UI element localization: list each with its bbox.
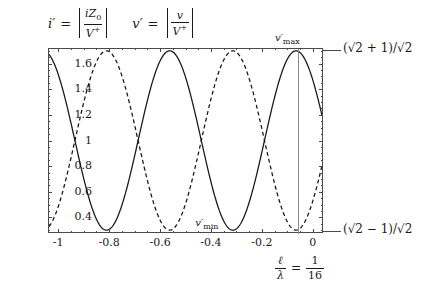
- axis-tick: [249, 48, 250, 50]
- axis-tick: [321, 108, 323, 109]
- axis-tick: [319, 166, 323, 167]
- axis-tick: [249, 231, 250, 233]
- abs-bar-right-current: [106, 8, 107, 38]
- axis-tick: [186, 48, 187, 50]
- axis-tick: [48, 108, 50, 109]
- lower-right-leader: [323, 231, 341, 232]
- ratio-equals: =: [291, 261, 301, 275]
- axis-tick: [48, 166, 52, 167]
- current-num: iZ: [85, 7, 96, 20]
- ratio-den: 16: [306, 268, 324, 282]
- abs-bar-left-current: [79, 8, 80, 38]
- axis-tick: [224, 48, 225, 50]
- axis-tick: [48, 147, 50, 148]
- axis-tick: [321, 121, 323, 122]
- axis-tick: [84, 48, 85, 50]
- axis-tick: [321, 51, 323, 52]
- current-den-sup: +: [94, 25, 101, 34]
- axis-tick: [321, 128, 323, 129]
- axis-tick: [48, 185, 50, 186]
- axis-tick: [319, 89, 323, 90]
- lower-right-label: (√2 − 1)/√2: [343, 222, 412, 236]
- axis-tick: [48, 211, 50, 212]
- upper-right-leader: [323, 50, 341, 51]
- axis-tick: [321, 224, 323, 225]
- axis-tick: [321, 96, 323, 97]
- axis-tick: [48, 224, 50, 225]
- standing-wave-figure: i′ = iZ0 V+ v′ = v V+ 0.40: [0, 0, 421, 290]
- axis-tick: [321, 205, 323, 206]
- abs-bar-right-voltage: [192, 8, 193, 38]
- abs-bar-left-voltage: [167, 8, 168, 38]
- voltage-prime: ′: [140, 16, 143, 31]
- axis-tick: [109, 48, 110, 52]
- axis-tick: [48, 134, 50, 135]
- axis-tick: [48, 89, 52, 90]
- axis-tick: [48, 153, 50, 154]
- axis-tick: [58, 229, 59, 233]
- axis-tick: [262, 48, 263, 52]
- axis-tick: [160, 48, 161, 52]
- axis-tick: [48, 192, 52, 193]
- axis-tick: [109, 229, 110, 233]
- y-tick-label: 1.6: [75, 57, 93, 70]
- axis-tick: [313, 229, 314, 233]
- axis-tick: [58, 48, 59, 52]
- axis-tick: [319, 192, 323, 193]
- axis-tick: [319, 115, 323, 116]
- x-tick-label: -1: [53, 236, 64, 249]
- y-tick-label: 1.2: [75, 108, 93, 121]
- voltage-fraction: v V+: [171, 10, 190, 38]
- voltage-equals: =: [148, 16, 159, 31]
- y-tick-label: 1.4: [75, 82, 93, 95]
- current-fraction: iZ0 V+: [83, 8, 103, 39]
- axis-tick: [48, 121, 50, 122]
- axis-tick: [96, 48, 97, 50]
- axis-tick: [48, 76, 50, 77]
- axis-tick: [287, 48, 288, 50]
- axis-tick: [321, 211, 323, 212]
- axis-tick: [319, 141, 323, 142]
- axis-tick: [319, 217, 323, 218]
- axis-tick: [321, 173, 323, 174]
- axis-tick: [173, 48, 174, 50]
- lambda-symbol: λ: [275, 268, 286, 282]
- axis-tick: [135, 231, 136, 233]
- axis-tick: [198, 231, 199, 233]
- axis-tick: [122, 48, 123, 50]
- axis-tick: [319, 64, 323, 65]
- axis-tick: [300, 48, 301, 50]
- vmax-marker-line: [298, 49, 299, 234]
- axis-tick: [48, 217, 52, 218]
- axis-tick: [321, 102, 323, 103]
- axis-tick: [300, 231, 301, 233]
- axis-tick: [48, 173, 50, 174]
- axis-tick: [48, 83, 50, 84]
- axis-tick: [147, 231, 148, 233]
- current-num-sub: 0: [96, 13, 101, 22]
- voltage-num: v: [177, 9, 183, 22]
- ratio-value-fraction: 1 16: [306, 255, 324, 281]
- axis-tick: [186, 231, 187, 233]
- axis-tick: [321, 70, 323, 71]
- axis-tick: [48, 205, 50, 206]
- axis-tick: [198, 48, 199, 50]
- x-tick-label: -0.6: [149, 236, 170, 249]
- axis-tick: [48, 179, 50, 180]
- axis-tick: [236, 231, 237, 233]
- axis-tick: [321, 57, 323, 58]
- formula-row: i′ = iZ0 V+ v′ = v V+: [48, 8, 218, 39]
- axis-tick: [287, 231, 288, 233]
- axis-tick: [173, 231, 174, 233]
- axis-tick: [48, 128, 50, 129]
- axis-tick: [147, 48, 148, 50]
- x-tick-label: -0.4: [200, 236, 221, 249]
- current-den: V: [86, 26, 94, 39]
- axis-tick: [321, 147, 323, 148]
- y-tick-label: 0.8: [75, 159, 93, 172]
- vmax-annotation: v′max: [275, 32, 300, 46]
- axis-tick: [71, 231, 72, 233]
- axis-tick: [96, 231, 97, 233]
- voltage-formula: v′ = v V+: [132, 8, 196, 38]
- axis-tick: [71, 48, 72, 50]
